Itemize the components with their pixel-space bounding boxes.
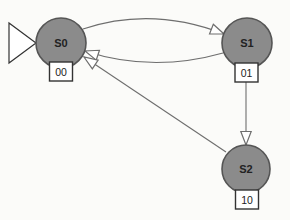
state-s0-label: S0 [54, 37, 67, 49]
state-s2-label: S2 [239, 163, 252, 175]
state-s0-output-label: 00 [55, 66, 67, 78]
transitions [83, 19, 246, 152]
state-s2: S2 10 [222, 145, 270, 209]
state-s1-output-label: 01 [241, 67, 253, 79]
edge-s1-to-s0 [85, 51, 223, 63]
state-s1: S1 01 [222, 18, 272, 82]
edge-s0-to-s1 [83, 19, 224, 34]
state-machine-diagram: S0 00 S1 01 S2 10 [0, 0, 290, 220]
initial-state-marker-icon [9, 23, 36, 63]
state-s1-label: S1 [240, 37, 253, 49]
edge-s2-to-s0 [84, 57, 226, 152]
state-s2-output-label: 10 [241, 194, 253, 206]
state-s0: S0 00 [36, 18, 86, 81]
